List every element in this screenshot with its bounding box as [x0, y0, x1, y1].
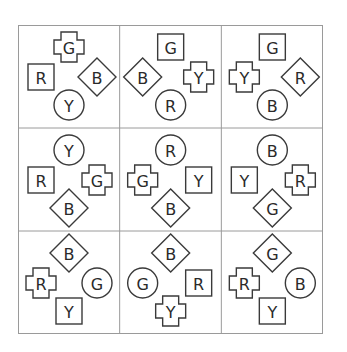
shape-letter: G — [91, 275, 103, 294]
square-icon: Y — [56, 298, 82, 324]
puzzle-cell[interactable]: YRGB — [18, 128, 120, 231]
puzzle-board: GRBYGBYRGYRBYRGBRGYBBYRGBRGYBGRYGRBY — [18, 25, 323, 334]
puzzle-cell[interactable]: RGYB — [120, 128, 222, 231]
circle-icon: G — [128, 268, 158, 298]
puzzle-cell[interactable]: GRBY — [221, 231, 323, 334]
shape-letter: Y — [238, 172, 249, 191]
square-icon: Y — [231, 167, 257, 193]
shape-letter: B — [64, 245, 75, 264]
puzzle-cell[interactable]: BYRG — [221, 128, 323, 231]
circle-icon: B — [257, 135, 287, 165]
puzzle-grid: GRBYGBYRGYRBYRGBRGYBBYRGBRGYBGRYGRBY — [18, 25, 323, 334]
shape-letter: Y — [63, 142, 74, 161]
square-icon: G — [259, 34, 285, 60]
shape-letter: R — [165, 142, 176, 161]
shape-letter: Y — [266, 303, 277, 322]
square-icon: Y — [186, 167, 212, 193]
square-icon: G — [158, 34, 184, 60]
shape-letter: R — [239, 275, 250, 294]
square-icon: R — [186, 270, 212, 296]
square-icon: Y — [259, 298, 285, 324]
shape-letter: G — [63, 39, 75, 58]
shape-letter: Y — [63, 303, 74, 322]
shape-letter: R — [35, 69, 46, 88]
circle-icon: Y — [54, 90, 84, 120]
square-icon: R — [28, 167, 54, 193]
shape-letter: Y — [193, 69, 204, 88]
puzzle-cell[interactable]: BRGY — [18, 231, 120, 334]
shape-letter: R — [295, 69, 306, 88]
circle-icon: R — [156, 90, 186, 120]
shape-letter: R — [295, 172, 306, 191]
shape-letter: B — [295, 275, 306, 294]
puzzle-cell[interactable]: GBYR — [120, 25, 222, 128]
shape-letter: Y — [165, 303, 176, 322]
shape-letter: R — [165, 97, 176, 116]
shape-letter: B — [165, 245, 176, 264]
shape-letter: B — [267, 142, 278, 161]
shape-letter: B — [92, 69, 103, 88]
shape-letter: G — [136, 275, 148, 294]
shape-letter: Y — [238, 69, 249, 88]
circle-icon: G — [82, 268, 112, 298]
shape-letter: R — [35, 172, 46, 191]
shape-letter: Y — [63, 97, 74, 116]
shape-letter: R — [193, 275, 204, 294]
shape-letter: G — [266, 39, 278, 58]
circle-icon: B — [285, 268, 315, 298]
shape-letter: B — [165, 200, 176, 219]
shape-letter: G — [266, 245, 278, 264]
puzzle-cell[interactable]: GYRB — [221, 25, 323, 128]
shape-letter: R — [35, 275, 46, 294]
circle-icon: R — [156, 135, 186, 165]
shape-letter: B — [64, 200, 75, 219]
shape-letter: B — [267, 97, 278, 116]
circle-icon: B — [257, 90, 287, 120]
shape-letter: G — [164, 39, 176, 58]
shape-letter: G — [136, 172, 148, 191]
square-icon: R — [28, 64, 54, 90]
shape-letter: B — [137, 69, 148, 88]
shape-letter: G — [91, 172, 103, 191]
puzzle-cell[interactable]: BGRY — [120, 231, 222, 334]
circle-icon: Y — [54, 135, 84, 165]
shape-letter: G — [266, 200, 278, 219]
puzzle-cell[interactable]: GRBY — [18, 25, 120, 128]
shape-letter: Y — [193, 172, 204, 191]
